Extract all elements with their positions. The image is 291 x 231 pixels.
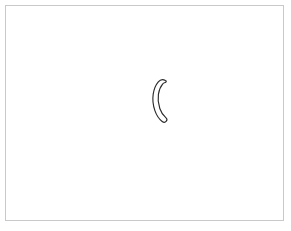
- drawing-canvas[interactable]: [5, 5, 284, 221]
- screen-root: [0, 0, 291, 231]
